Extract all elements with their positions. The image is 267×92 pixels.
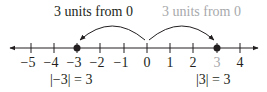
tick-label-1: 1 bbox=[167, 56, 174, 70]
tick-label-0: 0 bbox=[144, 56, 151, 70]
tick-label-3: 3 bbox=[214, 56, 221, 70]
tick-label-neg1: −1 bbox=[114, 56, 129, 70]
tick-label-neg2: −2 bbox=[90, 56, 105, 70]
right-arc-label: 3 units from 0 bbox=[162, 5, 241, 19]
left-distance-arc bbox=[80, 26, 145, 40]
tick-label-2: 2 bbox=[190, 56, 197, 70]
left-absolute-value-equation: |−3| = 3 bbox=[50, 73, 92, 87]
point-neg3 bbox=[74, 45, 81, 52]
tick-label-neg4: −4 bbox=[44, 56, 59, 70]
right-absolute-value-equation: |3| = 3 bbox=[196, 73, 231, 87]
point-3 bbox=[214, 45, 221, 52]
tick-label-neg3: −3 bbox=[67, 56, 82, 70]
left-arc-label: 3 units from 0 bbox=[54, 5, 133, 19]
right-distance-arc bbox=[149, 26, 214, 40]
tick-label-neg5: −5 bbox=[21, 56, 36, 70]
tick-label-4: 4 bbox=[237, 56, 244, 70]
number-line-figure: 3 units from 0 3 units from 0 −5 −4 −3 −… bbox=[0, 0, 267, 92]
